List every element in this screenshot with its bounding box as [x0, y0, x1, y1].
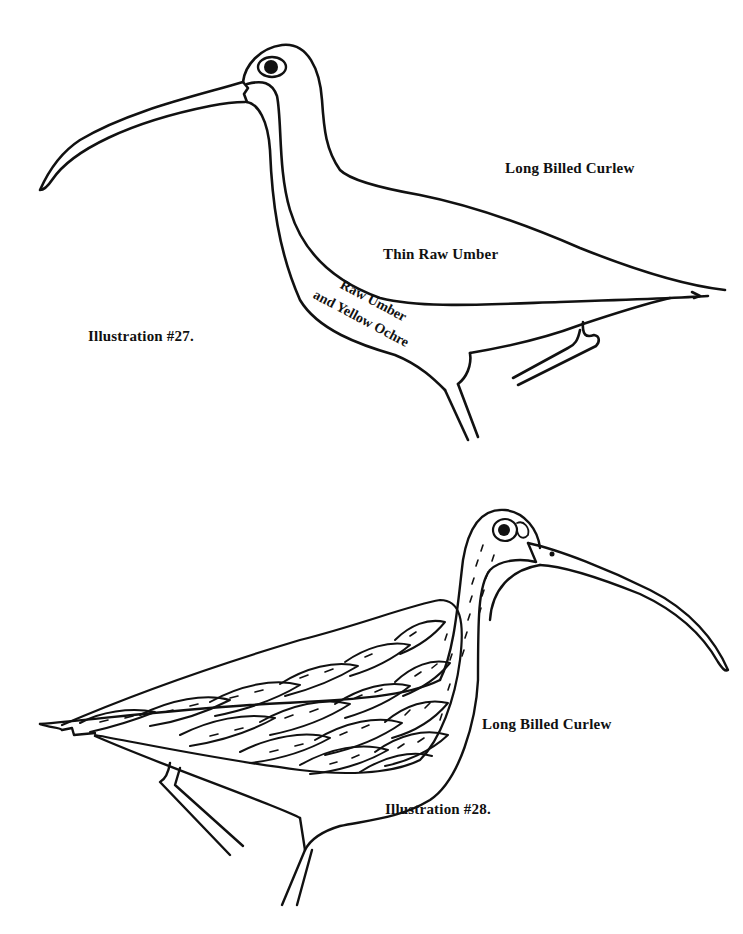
curlew-feathered-drawing	[0, 0, 743, 934]
book-page: Long Billed Curlew Thin Raw Umber Raw Um…	[0, 0, 743, 934]
illustration-28-caption: Illustration #28.	[385, 801, 491, 818]
illustration-28-title: Long Billed Curlew	[482, 716, 611, 733]
